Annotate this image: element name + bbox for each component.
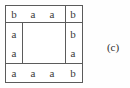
grid-cell-top-3: b <box>67 9 79 20</box>
letter-grid-box: b a a b a a b a a a a b <box>5 5 83 83</box>
grid-cell-left-1: a <box>8 48 20 59</box>
figure-container: b a a b a a b a a a a b (c) <box>0 0 130 88</box>
grid-cell-top-0: b <box>8 9 20 20</box>
grid-cell-bottom-0: a <box>8 68 20 79</box>
grid-horizontal-line-bottom <box>6 63 82 64</box>
grid-cell-right-0: b <box>67 29 79 40</box>
grid-cell-bottom-3: b <box>67 68 79 79</box>
grid-vertical-line-right <box>65 6 66 63</box>
grid-cell-bottom-1: a <box>27 68 39 79</box>
grid-hollow-center <box>23 23 65 63</box>
grid-cell-top-1: a <box>27 9 39 20</box>
grid-cell-top-2: a <box>46 9 58 20</box>
grid-cell-left-0: a <box>8 29 20 40</box>
grid-cell-bottom-2: a <box>46 68 58 79</box>
figure-caption-label: (c) <box>97 41 129 53</box>
grid-cell-right-1: a <box>67 48 79 59</box>
